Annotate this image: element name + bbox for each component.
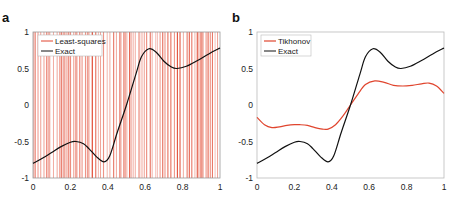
y-tick: -0.5 xyxy=(238,137,253,147)
x-tick: 0.4 xyxy=(102,182,114,192)
x-tick: 0.6 xyxy=(139,182,151,192)
legend-label: Least-squares xyxy=(55,37,106,46)
figure: a 1 0.5 0 -0.5 -1 0 0.2 0.4 0.6 0.8 1 Le… xyxy=(0,0,463,199)
y-tick: 1 xyxy=(24,27,29,37)
y-tick: -1 xyxy=(21,173,29,183)
x-ticks-b: 0 0.2 0.4 0.6 0.8 1 xyxy=(255,182,447,192)
x-tick: 0.2 xyxy=(288,182,300,192)
legend-a: Least-squares Exact xyxy=(38,35,106,56)
y-ticks-a: 1 0.5 0 -0.5 -1 xyxy=(14,27,29,183)
x-tick: 0.4 xyxy=(326,182,338,192)
legend-label: Exact xyxy=(55,47,76,56)
y-tick: -0.5 xyxy=(14,137,29,147)
exact-curve-b xyxy=(257,48,444,163)
x-tick: 0 xyxy=(31,182,36,192)
y-tick: -1 xyxy=(245,173,253,183)
x-tick: 1 xyxy=(442,182,447,192)
y-tick: 0.5 xyxy=(241,64,253,74)
x-tick: 0.8 xyxy=(401,182,413,192)
y-ticks-b: 1 0.5 0 -0.5 -1 xyxy=(238,27,253,183)
x-tick: 0.8 xyxy=(177,182,189,192)
panel-label-a: a xyxy=(2,10,10,25)
panel-a: a 1 0.5 0 -0.5 -1 0 0.2 0.4 0.6 0.8 1 Le… xyxy=(2,10,223,192)
legend-label: Tikhonov xyxy=(278,37,310,46)
panel-label-b: b xyxy=(232,10,240,25)
y-tick: 0.5 xyxy=(17,64,29,74)
y-tick: 0 xyxy=(248,100,253,110)
y-tick: 1 xyxy=(248,27,253,37)
legend-b: Tikhonov Exact xyxy=(261,35,311,56)
x-tick: 1 xyxy=(218,182,223,192)
panel-b: b 1 0.5 0 -0.5 -1 0 0.2 0.4 0.6 0.8 1 Ti… xyxy=(232,10,447,192)
x-tick: 0.6 xyxy=(363,182,375,192)
x-ticks-a: 0 0.2 0.4 0.6 0.8 1 xyxy=(31,182,223,192)
y-tick: 0 xyxy=(24,100,29,110)
legend-label: Exact xyxy=(278,47,299,56)
x-tick: 0 xyxy=(255,182,260,192)
x-tick: 0.2 xyxy=(64,182,76,192)
